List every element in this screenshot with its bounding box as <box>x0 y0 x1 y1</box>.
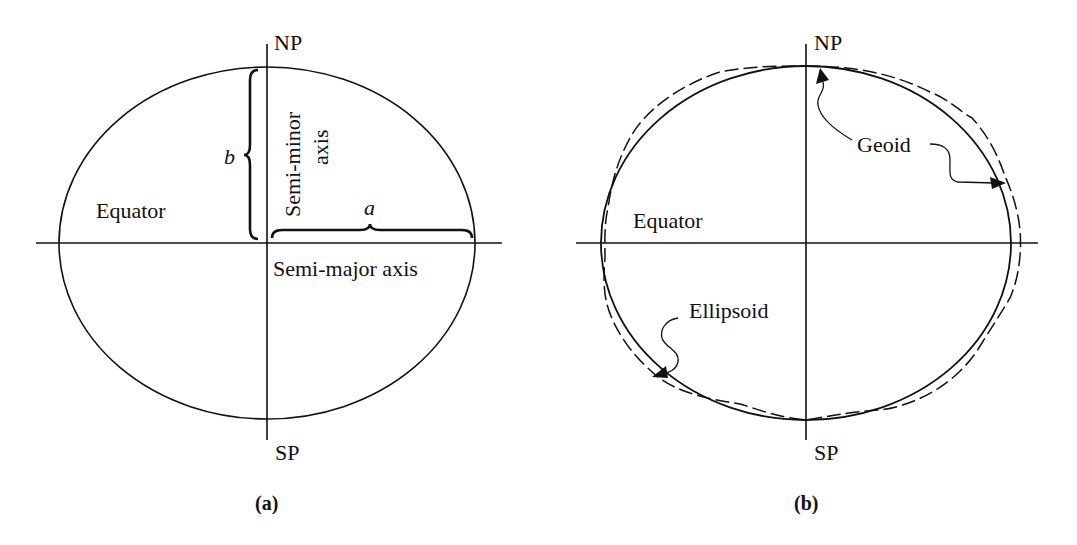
ellipsoid-arrow <box>662 318 679 374</box>
panel-b: NP SP Equator Geoid Ellipsoid (b) <box>576 30 1038 515</box>
semi-minor-axis-label: Semi-minor <box>280 111 305 217</box>
north-pole-label-b: NP <box>814 30 842 55</box>
geoid-arrow-np <box>818 82 852 140</box>
equator-label-a: Equator <box>96 198 166 223</box>
semi-major-axis-label: Semi-major axis <box>273 256 418 281</box>
south-pole-label-b: SP <box>814 440 838 465</box>
geoid-ellipsoid-figure: NP SP Equator b a Semi-minor axis Semi-m… <box>0 0 1077 545</box>
geoid-arrow-right <box>930 144 995 183</box>
geoid-label: Geoid <box>857 132 911 157</box>
semi-major-brace <box>272 224 472 238</box>
semi-minor-axis-label-line2: axis <box>308 130 333 165</box>
panel-a: NP SP Equator b a Semi-minor axis Semi-m… <box>36 30 502 515</box>
south-pole-label-a: SP <box>275 440 299 465</box>
semi-minor-brace <box>244 70 258 239</box>
caption-a: (a) <box>255 492 278 515</box>
equator-label-b: Equator <box>633 208 703 233</box>
a-symbol: a <box>364 195 375 220</box>
caption-b: (b) <box>794 492 818 515</box>
b-symbol: b <box>224 144 235 169</box>
north-pole-label-a: NP <box>274 30 302 55</box>
geoid-arrowhead-np <box>816 68 829 84</box>
ellipsoid-label: Ellipsoid <box>689 298 768 323</box>
